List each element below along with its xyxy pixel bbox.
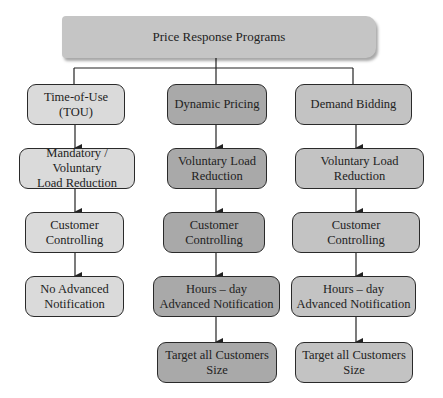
node-label: Voluntary Load Reduction bbox=[321, 154, 399, 184]
node-target-all-customers-demand: Target all Customers Size bbox=[295, 342, 413, 383]
connector-lines bbox=[0, 0, 443, 398]
node-label: Hours – day Advanced Notification bbox=[159, 282, 273, 312]
node-demand-bidding: Demand Bidding bbox=[295, 84, 412, 125]
node-voluntary-load-reduction-dynamic: Voluntary Load Reduction bbox=[167, 148, 267, 189]
node-hours-day-notification-demand: Hours – day Advanced Notification bbox=[291, 276, 416, 317]
node-label: Customer Controlling bbox=[185, 218, 243, 248]
node-label: Dynamic Pricing bbox=[174, 97, 259, 112]
node-label: Customer Controlling bbox=[46, 218, 104, 248]
node-label: Time-of-Use (TOU) bbox=[44, 90, 108, 120]
node-dynamic-pricing: Dynamic Pricing bbox=[167, 84, 267, 125]
node-mandatory-voluntary-load-reduction: Mandatory / Voluntary Load Reduction bbox=[19, 148, 135, 189]
node-label: Hours – day Advanced Notification bbox=[296, 282, 410, 312]
node-voluntary-load-reduction-demand: Voluntary Load Reduction bbox=[295, 148, 424, 189]
node-label: Voluntary Load Reduction bbox=[178, 154, 256, 184]
node-label: Mandatory / Voluntary Load Reduction bbox=[23, 146, 131, 191]
node-label: Target all Customers Size bbox=[302, 348, 406, 378]
node-label: Customer Controlling bbox=[327, 218, 385, 248]
node-target-all-customers-dynamic: Target all Customers Size bbox=[157, 342, 277, 383]
node-hours-day-notification-dynamic: Hours – day Advanced Notification bbox=[153, 276, 280, 317]
node-label: Demand Bidding bbox=[311, 97, 397, 112]
node-no-advanced-notification: No Advanced Notification bbox=[25, 276, 124, 317]
node-label: No Advanced Notification bbox=[40, 282, 108, 312]
node-customer-controlling-demand: Customer Controlling bbox=[292, 212, 420, 253]
node-time-of-use: Time-of-Use (TOU) bbox=[27, 84, 125, 125]
node-customer-controlling-tou: Customer Controlling bbox=[25, 212, 124, 253]
root-node-price-response-programs: Price Response Programs bbox=[62, 16, 376, 58]
node-label: Target all Customers Size bbox=[165, 348, 269, 378]
node-customer-controlling-dynamic: Customer Controlling bbox=[163, 212, 265, 253]
root-node-label: Price Response Programs bbox=[153, 29, 286, 45]
